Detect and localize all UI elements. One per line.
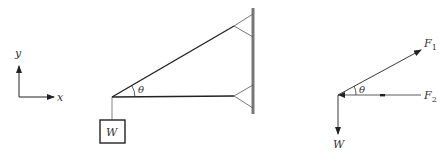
free-body-diagram: θ F1 F2 W (333, 37, 437, 151)
force-f1-arrow (338, 50, 421, 95)
angle-arc (132, 86, 135, 97)
fbd-angle-arc (354, 86, 356, 95)
lower-bracket-bottom (234, 96, 253, 108)
force-f2-label: F2 (423, 89, 437, 104)
upper-bracket-top (234, 14, 253, 26)
angle-label: θ (138, 84, 144, 95)
horizontal-cable (112, 96, 234, 97)
lower-bracket-top (234, 85, 253, 96)
y-axis-label: y (14, 47, 22, 60)
force-f1-label: F1 (423, 37, 437, 52)
weight-label: W (106, 126, 119, 139)
force-f2-mark (380, 94, 385, 96)
coordinate-axes: y x (14, 47, 64, 104)
fbd-angle-label: θ (359, 84, 365, 95)
inclined-cable (112, 26, 234, 97)
upper-bracket-bottom (234, 26, 253, 37)
diagram-canvas: y x θ W θ F1 F2 W (0, 0, 448, 154)
x-axis-label: x (57, 91, 64, 104)
cable-structure: θ W (100, 8, 253, 143)
fbd-weight-label: W (333, 138, 346, 151)
